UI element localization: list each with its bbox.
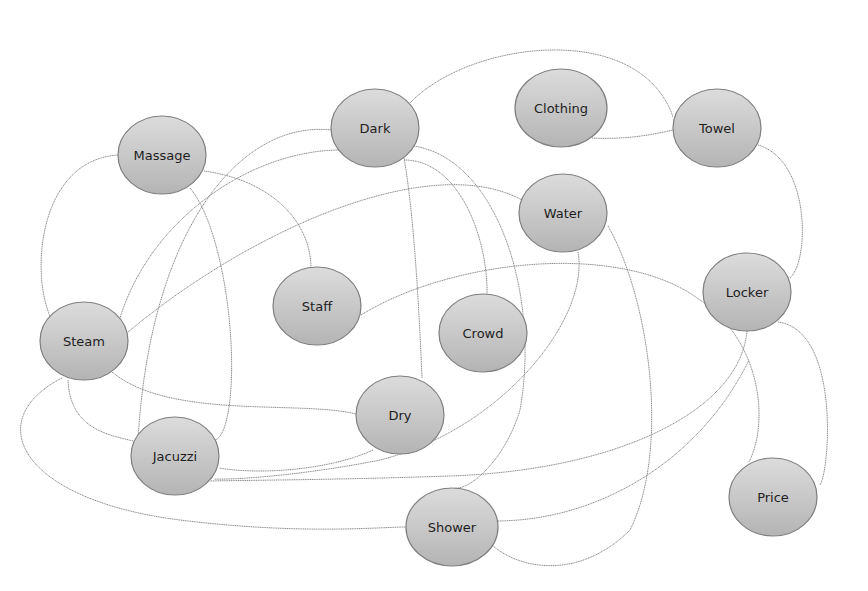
edge-dry-jacuzzi — [219, 450, 373, 471]
node-label: Steam — [63, 334, 105, 349]
node-steam[interactable]: Steam — [40, 302, 128, 380]
node-label: Water — [544, 206, 583, 221]
node-label: Massage — [134, 148, 191, 163]
edge-steam-dry — [112, 372, 356, 414]
node-label: Locker — [726, 285, 769, 300]
node-staff[interactable]: Staff — [273, 267, 361, 345]
edge-dark-crowd — [404, 160, 487, 294]
node-label: Dry — [388, 408, 411, 423]
concept-network-diagram: MassageDarkClothingTowelWaterStaffLocker… — [0, 0, 868, 591]
edge-water-shower — [492, 226, 652, 566]
node-label: Shower — [428, 520, 477, 535]
node-clothing[interactable]: Clothing — [515, 69, 607, 147]
node-jacuzzi[interactable]: Jacuzzi — [131, 417, 219, 495]
node-locker[interactable]: Locker — [703, 253, 791, 331]
node-crowd[interactable]: Crowd — [439, 294, 527, 372]
node-label: Towel — [698, 121, 735, 136]
node-label: Jacuzzi — [152, 449, 197, 464]
node-label: Clothing — [534, 101, 588, 116]
node-water[interactable]: Water — [519, 174, 607, 252]
node-label: Crowd — [463, 326, 504, 341]
node-dark[interactable]: Dark — [331, 89, 419, 167]
nodes-layer: MassageDarkClothingTowelWaterStaffLocker… — [40, 69, 817, 566]
node-towel[interactable]: Towel — [673, 89, 761, 167]
node-label: Dark — [360, 121, 391, 136]
edge-steam-massage — [41, 155, 118, 316]
node-shower[interactable]: Shower — [406, 488, 498, 566]
node-label: Price — [757, 490, 789, 505]
edge-shower-locker — [498, 360, 749, 521]
node-massage[interactable]: Massage — [118, 116, 206, 194]
node-dry[interactable]: Dry — [356, 376, 444, 454]
edge-massage-staff — [204, 171, 311, 267]
node-price[interactable]: Price — [729, 458, 817, 536]
edge-dark-dry — [404, 158, 422, 378]
node-label: Staff — [302, 299, 333, 314]
edge-clothing-towel — [592, 130, 673, 138]
edge-steam-jacuzzi — [68, 380, 133, 441]
